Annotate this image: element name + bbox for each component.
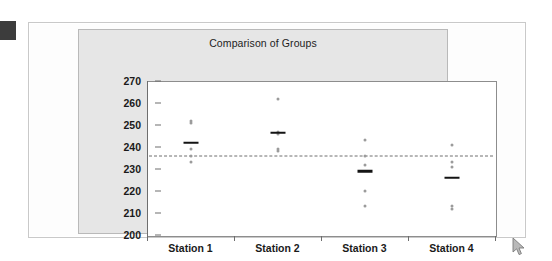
- x-axis-label-2: Station 2: [255, 242, 299, 254]
- y-tick-label: 210: [123, 207, 141, 219]
- data-point: [276, 150, 279, 153]
- y-tick-mark: [155, 191, 161, 192]
- data-point: [189, 154, 192, 157]
- data-point: [363, 154, 366, 157]
- y-tick-mark: [155, 103, 161, 104]
- group-mean-marker: [183, 141, 198, 144]
- y-tick-label: 260: [123, 97, 141, 109]
- x-tick-mark: [147, 236, 148, 241]
- x-tick-mark: [408, 236, 409, 241]
- y-tick-mark: [155, 235, 161, 236]
- group-mean-marker: [444, 177, 459, 180]
- x-axis-label-1: Station 1: [168, 242, 212, 254]
- x-tick-mark: [495, 236, 496, 241]
- x-axis-label-3: Station 3: [342, 242, 386, 254]
- y-tick-label: 270: [123, 75, 141, 87]
- slide-thumbnail-marker: [0, 21, 16, 40]
- y-tick-mark: [155, 81, 161, 82]
- x-tick-mark: [234, 236, 235, 241]
- y-tick-label: 240: [123, 141, 141, 153]
- data-point: [363, 139, 366, 142]
- plot-area: [147, 81, 497, 237]
- y-axis-line: [147, 81, 148, 236]
- slide-canvas: Comparison of Groups 2002102202302402502…: [0, 0, 552, 261]
- data-point: [363, 205, 366, 208]
- group-mean-marker: [270, 131, 285, 134]
- x-tick-mark: [321, 236, 322, 241]
- y-tick-mark: [155, 169, 161, 170]
- y-tick-mark: [155, 125, 161, 126]
- data-point: [450, 161, 453, 164]
- chart-object[interactable]: Comparison of Groups 2002102202302402502…: [78, 29, 448, 234]
- y-axis: 200210220230240250260270: [93, 30, 141, 233]
- y-tick-mark: [155, 213, 161, 214]
- group-mean-marker: [357, 170, 372, 173]
- data-point: [189, 161, 192, 164]
- data-point: [189, 148, 192, 151]
- data-point: [189, 121, 192, 124]
- x-axis-label-4: Station 4: [429, 242, 473, 254]
- data-point: [450, 143, 453, 146]
- y-tick-label: 250: [123, 119, 141, 131]
- data-point: [450, 207, 453, 210]
- y-tick-label: 200: [123, 229, 141, 241]
- data-point: [450, 165, 453, 168]
- data-point: [276, 97, 279, 100]
- grand-mean-line: [149, 155, 493, 156]
- mouse-cursor-icon: [512, 238, 526, 256]
- y-tick-label: 230: [123, 163, 141, 175]
- data-point: [363, 163, 366, 166]
- slide-frame: Comparison of Groups 2002102202302402502…: [28, 22, 526, 238]
- data-point: [363, 190, 366, 193]
- y-tick-label: 220: [123, 185, 141, 197]
- y-tick-mark: [155, 147, 161, 148]
